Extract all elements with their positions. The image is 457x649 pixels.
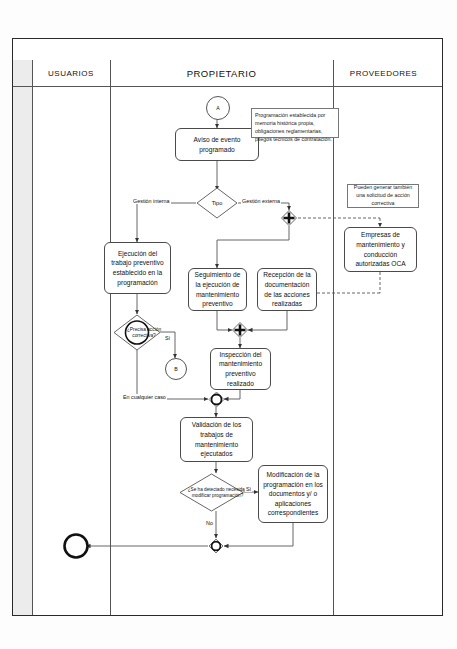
node-aviso-evento-programado[interactable]: Aviso de evento programado xyxy=(175,128,259,161)
decision-tipo-label: Tipo xyxy=(196,187,238,219)
merge-node-2 xyxy=(232,322,248,338)
decision-precisa-accion-correctiva[interactable]: ¿Precisa acción correctiva? xyxy=(113,314,161,351)
note-text: Pueden generar también una solicitud de … xyxy=(351,184,415,208)
note-text: Programación establecida por memoria his… xyxy=(255,112,335,144)
note-pueden-generar-solicitud: Pueden generar también una solicitud de … xyxy=(347,184,419,208)
diagram-frame xyxy=(12,38,443,616)
end-node xyxy=(62,532,90,560)
node-label: Validación de los trabajos de mantenimie… xyxy=(184,420,249,458)
lane-header-proveedores: PROVEEDORES xyxy=(333,60,434,86)
merge-node-1 xyxy=(281,210,297,226)
edge-label-detectado-si: Sí xyxy=(245,486,252,492)
node-label: Inspección del mantenimiento preventivo … xyxy=(214,350,267,388)
lane-divider-gutter xyxy=(32,60,33,615)
node-inspeccion-mantenimiento[interactable]: Inspección del mantenimiento preventivo … xyxy=(210,348,271,390)
node-label: Empresas de mantenimiento y conducción a… xyxy=(348,230,413,268)
connector-b: B xyxy=(165,358,187,380)
node-recepcion-documentacion[interactable]: Recepción de la documentación de las acc… xyxy=(257,268,317,311)
diagram-page: SMA01: MANTENIMIENTO CORRECTIVO Y PREVEN… xyxy=(0,0,457,649)
node-label: Modificación de la programación en los d… xyxy=(262,470,324,518)
edge-label-detectado-no: No xyxy=(205,520,214,526)
lane-header-propietario: PROPIETARIO xyxy=(110,60,333,86)
lane-header-divider xyxy=(13,86,442,87)
edge-label-gestion-interna: Gestión interna xyxy=(132,198,171,204)
edge-label-en-cualquier-caso: En cualquier caso xyxy=(122,394,167,400)
node-label: Seguimiento de la ejecución de mantenimi… xyxy=(192,270,243,308)
start-connector-label: A xyxy=(216,105,219,111)
lane-header-usuarios: USUARIOS xyxy=(32,60,110,86)
node-ejecucion-trabajo-preventivo[interactable]: Ejecución del trabajo preventivo estable… xyxy=(104,242,171,294)
node-label: Ejecución del trabajo preventivo estable… xyxy=(108,249,167,287)
left-gutter-strip xyxy=(13,60,32,615)
connector-b-label: B xyxy=(174,366,177,372)
node-seguimiento-ejecucion[interactable]: Seguimiento de la ejecución de mantenimi… xyxy=(188,268,247,311)
decision-necesidad-modificar[interactable]: ¿Se ha detectado necesidad modificar pro… xyxy=(179,473,244,512)
decision-detectado-label: ¿Se ha detectado necesidad modificar pro… xyxy=(179,473,256,512)
lane-divider-usuarios-propietario xyxy=(110,60,111,615)
edge-label-precisa-si: Sí xyxy=(164,335,171,341)
node-modificacion-programacion[interactable]: Modificación de la programación en los d… xyxy=(258,465,328,523)
decision-tipo[interactable]: Tipo xyxy=(196,187,238,219)
merge-node-4 xyxy=(208,538,224,554)
node-label: Aviso de evento programado xyxy=(179,135,255,154)
merge-node-3 xyxy=(208,391,225,408)
node-empresas-mantenimiento[interactable]: Empresas de mantenimiento y conducción a… xyxy=(344,227,417,272)
node-validacion-trabajos[interactable]: Validación de los trabajos de mantenimie… xyxy=(180,417,253,462)
decision-precisa-label: ¿Precisa acción correctiva? xyxy=(113,314,175,351)
note-programacion-establecida: Programación establecida por memoria his… xyxy=(251,108,339,138)
start-connector-a: A xyxy=(206,96,230,120)
edge-label-gestion-externa: Gestión externa xyxy=(241,198,281,204)
node-label: Recepción de la documentación de las acc… xyxy=(261,270,313,308)
